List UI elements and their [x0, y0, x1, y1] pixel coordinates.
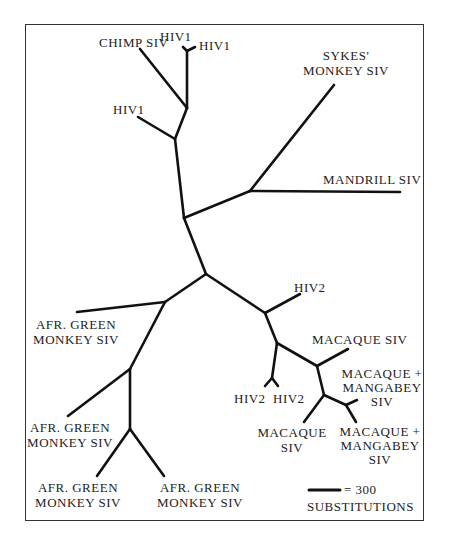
- branch-hiv1-b: [187, 47, 195, 51]
- branch-hiv1-to-center: [175, 139, 184, 218]
- label-line: AFR. GREEN: [33, 317, 119, 332]
- label-line: AFR. GREEN: [157, 480, 243, 495]
- label-macaque-mangabey-siv-1: MACAQUE + MANGABEY SIV: [340, 367, 424, 409]
- label-line: AFR. GREEN: [27, 420, 113, 435]
- label-hiv1-b: HIV1: [199, 38, 231, 53]
- label-macaque-siv-bottom: MACAQUE SIV: [256, 425, 328, 455]
- branch-mandrill: [250, 191, 400, 192]
- label-hiv2-left: HIV2: [234, 391, 266, 406]
- branch-chimp-siv: [140, 49, 187, 108]
- branch-hiv1-clade: [175, 108, 187, 139]
- label-line: MONKEY SIV: [296, 63, 396, 78]
- label-line: MONKEY SIV: [27, 435, 113, 450]
- label-line: MANGABEY: [337, 439, 423, 453]
- branch-center: [184, 218, 206, 274]
- branch-hiv2-clade: [206, 274, 265, 313]
- label-macaque-siv-top: MACAQUE SIV: [312, 332, 407, 347]
- label-agm-siv-1: AFR. GREEN MONKEY SIV: [33, 317, 119, 347]
- label-line: MACAQUE: [256, 425, 328, 440]
- label-hiv2-right: HIV2: [273, 391, 305, 406]
- label-line: MACAQUE +: [337, 425, 423, 439]
- label-agm-siv-3: AFR. GREEN MONKEY SIV: [35, 480, 121, 510]
- scale-bar-unit: SUBSTITUTIONS: [307, 499, 414, 514]
- branch-agm-inner: [130, 302, 165, 369]
- label-agm-siv-4: AFR. GREEN MONKEY SIV: [157, 480, 243, 510]
- label-hiv1-c: HIV1: [113, 102, 145, 117]
- label-line: SIV: [337, 453, 423, 467]
- branch-hiv2-left: [265, 378, 272, 386]
- label-sykes-monkey-siv: SYKES' MONKEY SIV: [296, 48, 396, 78]
- label-agm-siv-2: AFR. GREEN MONKEY SIV: [27, 420, 113, 450]
- label-line: MACAQUE +: [340, 367, 424, 381]
- branch-agm4: [130, 429, 164, 476]
- branch-hiv2-top: [265, 294, 300, 313]
- branch-sykes: [250, 85, 334, 191]
- label-line: SYKES': [296, 48, 396, 63]
- branch-hiv2-right: [272, 378, 278, 386]
- label-macaque-mangabey-siv-2: MACAQUE + MANGABEY SIV: [337, 425, 423, 467]
- branch-macaque-siv-bottom: [304, 395, 324, 422]
- branch-macaque-siv-top: [317, 349, 348, 366]
- branch-agm-clade: [165, 274, 206, 302]
- label-mandrill-siv: MANDRILL SIV: [323, 172, 421, 187]
- branch-agm1: [77, 302, 165, 312]
- scale-bar-value: = 300: [344, 482, 377, 497]
- label-line: MONKEY SIV: [35, 495, 121, 510]
- label-hiv1-a: HIV1: [160, 29, 192, 44]
- branch-macaque-inner: [317, 366, 324, 395]
- branch-hiv1-c: [138, 117, 175, 139]
- branch-macaque-clade: [277, 343, 317, 366]
- label-hiv2-top: HIV2: [294, 280, 326, 295]
- label-line: MONKEY SIV: [157, 495, 243, 510]
- branch-agm2: [68, 369, 130, 416]
- label-line: SIV: [340, 395, 424, 409]
- branch-hiv2-pair: [272, 343, 277, 378]
- label-line: SIV: [256, 440, 328, 455]
- branch-hiv2-inner: [265, 313, 277, 343]
- label-line: AFR. GREEN: [35, 480, 121, 495]
- label-line: MANGABEY: [340, 381, 424, 395]
- label-line: MONKEY SIV: [33, 332, 119, 347]
- branch-sykes-mandrill: [184, 191, 250, 218]
- label-chimp-siv: CHIMP SIV: [99, 35, 168, 50]
